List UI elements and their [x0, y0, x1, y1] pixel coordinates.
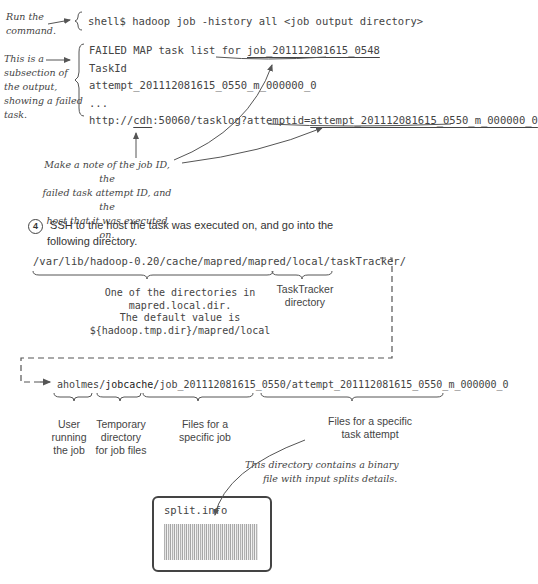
- brace-attempt: [261, 393, 443, 401]
- underline-attempt: [268, 124, 451, 126]
- arrow-to-job-id: [174, 65, 272, 160]
- brace-local-dir: [33, 271, 273, 279]
- brace-user: [54, 393, 92, 401]
- underline-job-id: [216, 57, 326, 59]
- dashed-connector: [21, 258, 392, 382]
- brace-job: [143, 393, 253, 401]
- brace-command: [75, 12, 82, 30]
- brace-jobcache: [97, 393, 141, 401]
- brace-output: [75, 44, 84, 116]
- brace-tasktracker: [272, 271, 332, 279]
- arrow-run-command: [48, 20, 70, 24]
- arrow-to-split-info: [215, 440, 305, 515]
